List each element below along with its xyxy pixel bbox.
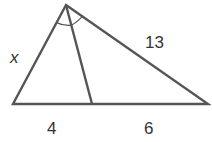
angle-mark-right	[71, 16, 83, 26]
triangle-diagram: x 13 4 6	[0, 0, 212, 142]
label-right-side: 13	[145, 33, 164, 52]
label-x: x	[9, 48, 19, 67]
angle-mark-left	[57, 23, 72, 26]
triangle	[13, 5, 208, 104]
label-base-right: 6	[144, 119, 153, 138]
label-base-left: 4	[47, 119, 56, 138]
